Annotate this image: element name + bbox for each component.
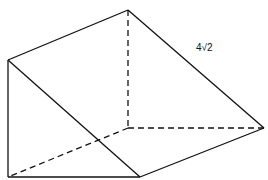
prism-figure xyxy=(0,0,268,180)
hypotenuse-edge-front xyxy=(8,60,140,177)
hidden-diagonal-edge xyxy=(8,128,128,177)
bottom-edge-right xyxy=(140,128,264,177)
hypotenuse-edge-back xyxy=(128,10,264,128)
prism-diagram: 4√2 xyxy=(0,0,268,180)
edge-length-label: 4√2 xyxy=(196,42,213,53)
top-edge xyxy=(8,10,128,60)
